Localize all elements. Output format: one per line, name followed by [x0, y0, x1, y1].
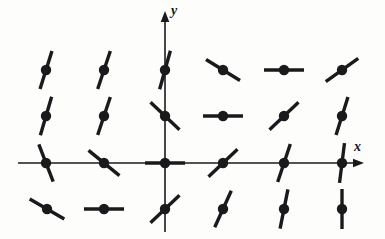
grid-point-dot: [41, 111, 51, 121]
grid-point-dot: [279, 65, 289, 75]
y-axis-arrowhead: [161, 11, 170, 22]
grid-point-dot: [41, 65, 51, 75]
grid-point-dot: [218, 204, 228, 214]
grid-point-dot: [160, 65, 170, 75]
grid-point-dot: [99, 65, 109, 75]
direction-field-canvas: [0, 0, 385, 239]
grid-point-dot: [99, 204, 109, 214]
x-axis-label: x: [354, 140, 361, 154]
axes-group: [18, 11, 364, 232]
slope-segments-group: [30, 51, 359, 229]
grid-point-dot: [160, 158, 170, 168]
grid-point-dot: [218, 65, 228, 75]
grid-point-dot: [337, 204, 347, 214]
direction-field-figure: y x: [0, 0, 385, 239]
grid-point-dots-group: [41, 65, 347, 214]
x-axis-arrowhead: [353, 159, 364, 168]
grid-point-dot: [279, 204, 289, 214]
grid-point-dot: [160, 111, 170, 121]
grid-point-dot: [337, 65, 347, 75]
y-axis-label: y: [171, 4, 177, 18]
grid-point-dot: [41, 158, 51, 168]
grid-point-dot: [279, 158, 289, 168]
grid-point-dot: [218, 158, 228, 168]
grid-point-dot: [337, 158, 347, 168]
grid-point-dot: [218, 111, 228, 121]
grid-point-dot: [42, 204, 52, 214]
grid-point-dot: [279, 111, 289, 121]
grid-point-dot: [337, 111, 347, 121]
grid-point-dot: [99, 111, 109, 121]
grid-point-dot: [99, 158, 109, 168]
grid-point-dot: [160, 204, 170, 214]
